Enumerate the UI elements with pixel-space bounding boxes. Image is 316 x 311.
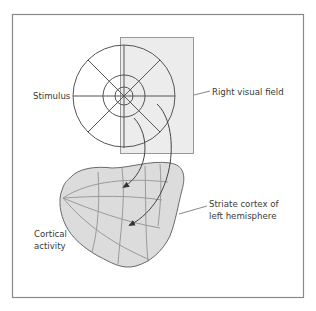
diagram-canvas: Right visual field Stimulus Striate cort… bbox=[0, 0, 316, 311]
stimulus-target bbox=[73, 45, 175, 148]
striate-cortex-label-line1: Striate cortex of bbox=[209, 199, 279, 209]
stimulus-label: Stimulus bbox=[33, 91, 71, 101]
cortical-activity-label-line2: activity bbox=[34, 241, 66, 251]
cortical-activity-label-line1: Cortical bbox=[34, 229, 67, 239]
right-visual-field-label: Right visual field bbox=[212, 87, 284, 97]
striate-cortex-label-line2: left hemisphere bbox=[209, 211, 276, 221]
